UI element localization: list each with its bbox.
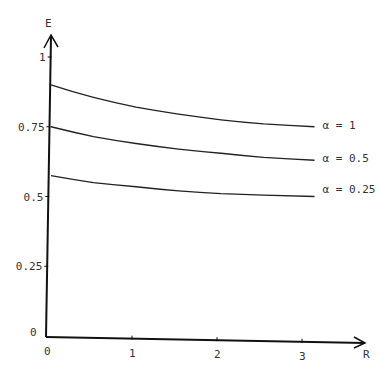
chart-svg: ER00.250.50.7510123α = 1α = 0.5α = 0.25 bbox=[0, 0, 388, 381]
curve-series-0 bbox=[51, 85, 315, 127]
y-tick-label: 0.5 bbox=[24, 191, 44, 204]
y-axis-line bbox=[46, 36, 51, 337]
series-label: α = 0.5 bbox=[323, 152, 369, 165]
x-tick-label: 1 bbox=[129, 347, 136, 360]
x-tick-label: 2 bbox=[214, 348, 221, 361]
x-axis-label: R bbox=[363, 348, 370, 361]
y-tick-label: 0 bbox=[30, 326, 37, 339]
y-axis-label: E bbox=[45, 17, 52, 30]
series-label: α = 1 bbox=[323, 119, 356, 132]
y-tick-label: 0.75 bbox=[18, 121, 45, 134]
axes bbox=[44, 35, 365, 348]
x-axis-line bbox=[46, 337, 365, 343]
x-tick-label: 3 bbox=[299, 350, 306, 363]
y-tick-label: 1 bbox=[39, 51, 46, 64]
curve-series-1 bbox=[51, 127, 315, 160]
x-tick-label: 0 bbox=[44, 345, 51, 358]
series-label: α = 0.25 bbox=[323, 183, 376, 196]
chart: ER00.250.50.7510123α = 1α = 0.5α = 0.25 bbox=[0, 0, 388, 381]
curve-series-2 bbox=[51, 176, 315, 197]
y-tick-label: 0.25 bbox=[16, 260, 43, 273]
labels: ER00.250.50.7510123α = 1α = 0.5α = 0.25 bbox=[16, 17, 376, 363]
curves bbox=[51, 85, 315, 197]
